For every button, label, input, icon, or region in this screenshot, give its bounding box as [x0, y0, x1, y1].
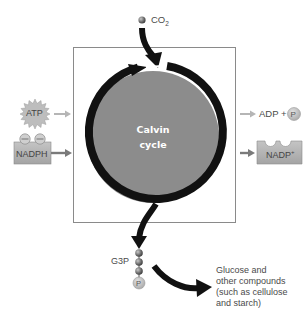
glucose-line: Glucose and [216, 265, 288, 276]
carbon-atom-icon [135, 258, 143, 266]
nadph-label: NADPH [16, 149, 48, 159]
atp-label: ATP [26, 109, 43, 118]
g3p-phosphate-label: P [136, 279, 141, 288]
adp-arrowhead-icon [250, 111, 256, 118]
glucose-arrowhead-icon [196, 279, 212, 297]
glucose-line: and starch) [216, 298, 288, 309]
nadp-superscript: + [291, 149, 295, 155]
calvin-label-line2: cycle [128, 137, 178, 152]
glucose-output-arrow [154, 266, 200, 288]
calvin-label-line1: Calvin [128, 122, 178, 137]
nadph-arrowhead-icon [65, 149, 72, 157]
co2-text: CO [151, 14, 165, 25]
nadp-arrowhead-icon [248, 149, 255, 157]
nadp-text: NADP [266, 150, 291, 160]
g3p-arrowhead-icon [131, 236, 147, 249]
calvin-cycle-label: Calvin cycle [128, 122, 178, 152]
atp-arrowhead-icon [65, 111, 71, 118]
adp-phosphate-label: P [291, 110, 296, 119]
glucose-line: other compounds [216, 276, 288, 287]
glucose-label: Glucose and other compounds (such as cel… [216, 265, 288, 309]
co2-molecule-icon [138, 16, 145, 23]
co2-label: CO2 [151, 15, 169, 27]
glucose-line: (such as cellulose [216, 287, 288, 298]
carbon-atom-icon [135, 249, 143, 257]
g3p-label: G3P [111, 257, 129, 266]
adp-label: ADP + [259, 109, 287, 119]
nadp-label: NADP+ [266, 149, 295, 160]
co2-subscript: 2 [165, 20, 169, 27]
carbon-atom-icon [135, 267, 143, 275]
